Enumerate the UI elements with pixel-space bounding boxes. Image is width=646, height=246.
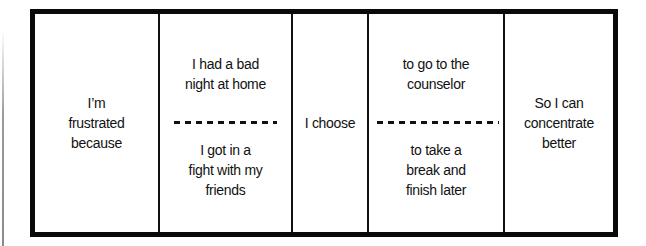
reason-option-1-text: I had a bad night at home xyxy=(185,54,266,94)
reason-option-1: I had a bad night at home xyxy=(160,14,291,122)
column-choice: I choose xyxy=(293,14,369,232)
dashed-divider xyxy=(377,121,499,124)
reason-option-2: I got in a fight with my friends xyxy=(160,134,291,232)
outcome-text: So I can concentrate better xyxy=(524,93,594,153)
left-edge-line xyxy=(2,30,4,246)
sentence-frame-diagram: I’m frustrated because I had a bad night… xyxy=(30,9,618,237)
column-feeling: I’m frustrated because xyxy=(35,14,160,232)
action-option-1-text: to go to the counselor xyxy=(403,54,469,94)
dashed-divider xyxy=(174,121,277,124)
reason-option-2-text: I got in a fight with my friends xyxy=(189,140,263,200)
feeling-text: I’m frustrated because xyxy=(68,93,124,153)
column-actions: to go to the counselor to take a break a… xyxy=(369,14,505,232)
action-option-2: to take a break and finish later xyxy=(369,134,503,232)
choice-text: I choose xyxy=(305,113,356,133)
action-option-1: to go to the counselor xyxy=(369,14,503,122)
column-outcome: So I can concentrate better xyxy=(505,14,613,232)
column-reasons: I had a bad night at home I got in a fig… xyxy=(160,14,293,232)
action-option-2-text: to take a break and finish later xyxy=(406,140,466,200)
